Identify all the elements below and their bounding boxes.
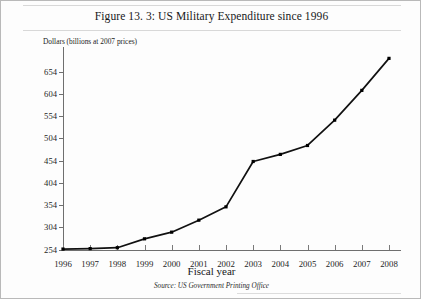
data-point-marker [61,247,64,250]
chart-plot-area: Dollars (billions at 2007 prices) 254304… [1,1,421,299]
data-point-marker [360,89,363,92]
data-point-marker [143,237,146,240]
data-point-marker [197,219,200,222]
data-point-marker [116,246,119,249]
data-point-marker [333,119,336,122]
figure-page: Figure 13. 3: US Military Expenditure si… [0,0,421,299]
x-axis-title: Fiscal year [1,265,421,277]
expenditure-line [63,58,389,249]
footer-rule [237,293,401,294]
source-note: Source: US Government Printing Office [1,282,421,290]
data-point-marker [306,144,309,147]
data-point-marker [279,153,282,156]
expenditure-markers [61,57,390,251]
data-point-marker [89,247,92,250]
data-point-marker [252,160,255,163]
data-point-marker [387,57,390,60]
expenditure-series [1,1,421,299]
data-point-marker [170,231,173,234]
data-point-marker [224,205,227,208]
